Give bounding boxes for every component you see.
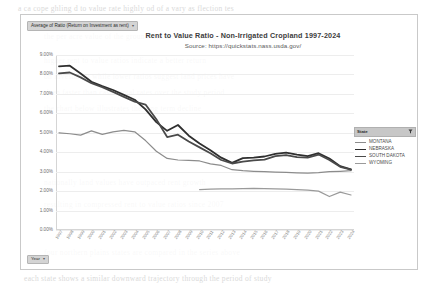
x-axis-tick-label: 1999	[77, 230, 86, 240]
x-axis-tick-label: 2017	[271, 230, 280, 240]
x-axis-tick-label: 2016	[260, 230, 269, 240]
x-axis-tick-label: 2014	[239, 230, 248, 240]
x-axis-tick-label: 2023	[336, 230, 345, 240]
x-axis-tick-label: 2020	[304, 230, 313, 240]
y-axis-tick-label: 5.00%	[40, 130, 53, 135]
x-axis-tick-label: 2000	[87, 230, 96, 240]
legend-item-label: MONTANA	[369, 140, 392, 145]
x-axis-tick-label: 2013	[228, 230, 237, 240]
legend-item-label: SOUTH DAKOTA	[369, 154, 405, 159]
x-axis-tick-label: 2021	[315, 230, 324, 240]
measure-field-pill[interactable]: Average of Ratio (Return on Investment a…	[27, 21, 138, 31]
x-axis-tick-label: 2009	[185, 230, 194, 240]
x-axis-tick-label: 2003	[120, 230, 129, 240]
plot-wrapper: 9.00%8.00%7.00%6.00%5.00%4.00%3.00%2.00%…	[56, 55, 354, 233]
y-axis-tick-label: 4.00%	[40, 150, 53, 155]
legend-color-swatch	[355, 149, 366, 150]
x-axis-tick-label: 2001	[98, 230, 107, 240]
x-axis-tick-label: 2024	[347, 230, 356, 240]
y-axis-tick-label: 7.00%	[40, 92, 53, 97]
series-line	[59, 66, 351, 170]
legend-color-swatch	[355, 156, 366, 157]
series-line	[200, 188, 351, 196]
x-axis-tick-label: 2019	[293, 230, 302, 240]
ghost-text-line: each state shows a similar downward traj…	[24, 274, 272, 283]
x-axis-tick-label: 2002	[109, 230, 118, 240]
x-axis-tick-label: 2005	[142, 230, 151, 240]
y-axis-tick-label: 3.00%	[40, 169, 53, 174]
page-title: Rent to Value Ratio - Non-Irrigated Crop…	[69, 31, 417, 40]
x-axis-tick-label: 2012	[217, 230, 226, 240]
chart-source-subtitle: Source: https://quickstats.nass.usda.gov…	[69, 42, 417, 49]
ghost-text-line: a ca cope ghling d to value rate highly …	[18, 4, 234, 13]
x-axis-tick-label: 2007	[163, 230, 172, 240]
legend-header[interactable]: State	[354, 127, 416, 137]
legend-item-label: NEBRASKA	[369, 147, 394, 152]
chevron-down-icon: ▾	[43, 257, 45, 261]
x-axis-tick-label: 2004	[131, 230, 140, 240]
x-axis-tick-label: 2010	[196, 230, 205, 240]
y-axis-tick-label: 9.00%	[40, 53, 53, 58]
legend-header-label: State	[357, 130, 368, 134]
y-axis-tick-label: 8.00%	[40, 72, 53, 77]
y-axis-tick-label: 1.00%	[40, 208, 53, 213]
legend-item-montana[interactable]: MONTANA	[354, 140, 416, 145]
year-filter-label: Year	[31, 257, 40, 261]
x-axis-tick-label: 2006	[152, 230, 161, 240]
legend-item-label: WYOMING	[369, 161, 392, 166]
legend-item-wyoming[interactable]: WYOMING	[354, 161, 416, 166]
legend-color-swatch	[355, 142, 366, 143]
chart-title-block: Rent to Value Ratio - Non-Irrigated Crop…	[21, 31, 417, 49]
measure-field-label: Average of Ratio (Return on Investment a…	[31, 24, 129, 29]
y-axis-tick-label: 2.00%	[40, 189, 53, 194]
plot-area: 9.00%8.00%7.00%6.00%5.00%4.00%3.00%2.00%…	[56, 55, 354, 230]
legend-item-south-dakota[interactable]: SOUTH DAKOTA	[354, 154, 416, 159]
x-axis-tick-label: 1997	[55, 230, 64, 240]
x-axis-tick-label: 2018	[282, 230, 291, 240]
legend-color-swatch	[355, 163, 366, 164]
x-axis-tick-label: 2022	[325, 230, 334, 240]
x-axis-tick-label: 2008	[174, 230, 183, 240]
x-axis-tick-label: 1998	[66, 230, 75, 240]
y-axis-tick-label: 0.00%	[40, 228, 53, 233]
x-axis-tick-label: 2011	[206, 230, 215, 240]
filter-icon[interactable]	[408, 129, 413, 135]
legend-item-nebraska[interactable]: NEBRASKA	[354, 147, 416, 152]
chart-panel: Average of Ratio (Return on Investment a…	[20, 14, 418, 270]
chart-legend: State MONTANANEBRASKASOUTH DAKOTAWYOMING	[354, 127, 416, 166]
y-axis-tick-label: 6.00%	[40, 111, 53, 116]
series-layer	[56, 55, 354, 230]
x-axis-tick-label: 2015	[250, 230, 259, 240]
chevron-down-icon: ▾	[132, 24, 134, 28]
series-line	[59, 130, 351, 173]
year-filter-pill[interactable]: Year ▾	[27, 255, 49, 264]
